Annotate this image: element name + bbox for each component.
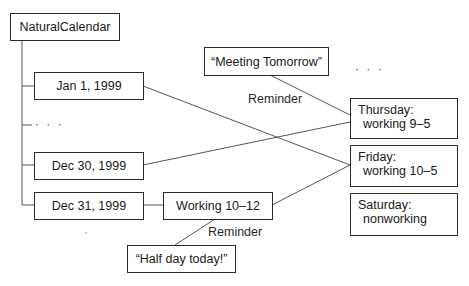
root-natural-calendar: NaturalCalendar — [10, 13, 120, 41]
reminder-note-meeting: “Meeting Tomorrow” — [204, 47, 329, 76]
connector-lines — [0, 0, 469, 286]
weekday-ellipsis: · · · — [355, 62, 384, 76]
date-node-dec31: Dec 31, 1999 — [34, 192, 144, 220]
reminder-relation-label: Reminder — [208, 225, 262, 239]
weekday-hours: nonworking — [358, 212, 457, 226]
weekday-name: Thursday: — [358, 103, 457, 117]
reminder-note-text: “Meeting Tomorrow” — [211, 55, 322, 69]
reminder-relation-label: Reminder — [248, 92, 302, 106]
link-working-friday — [272, 165, 350, 205]
link-jan1-friday — [143, 86, 350, 165]
weekday-hours: working 9–5 — [358, 117, 457, 131]
date-label: Dec 31, 1999 — [52, 199, 126, 213]
weekday-node-friday: Friday: working 10–5 — [350, 145, 458, 187]
override-node-working: Working 10–12 — [163, 192, 273, 220]
date-ellipsis: · · · — [35, 117, 64, 131]
root-label: NaturalCalendar — [19, 20, 110, 34]
override-label: Working 10–12 — [176, 199, 260, 213]
link-dec30-thursday — [143, 122, 350, 165]
date-node-jan1: Jan 1, 1999 — [34, 72, 144, 100]
stray-dot — [85, 232, 87, 234]
reminder-note-halfday: “Half day today!” — [127, 245, 236, 273]
weekday-name: Saturday: — [358, 198, 457, 212]
weekday-node-thursday: Thursday: working 9–5 — [350, 98, 458, 139]
weekday-hours: working 10–5 — [358, 164, 457, 178]
date-label: Dec 30, 1999 — [52, 159, 126, 173]
date-node-dec30: Dec 30, 1999 — [34, 152, 144, 180]
weekday-name: Friday: — [358, 150, 457, 164]
reminder-note-text: “Half day today!” — [136, 252, 228, 266]
weekday-node-saturday: Saturday: nonworking — [350, 193, 458, 236]
date-label: Jan 1, 1999 — [56, 79, 121, 93]
